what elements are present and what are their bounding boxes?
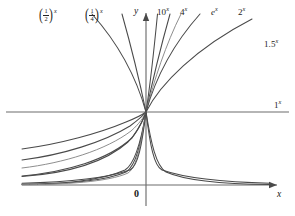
right-paren: )	[95, 9, 99, 21]
exponent-x: x	[54, 7, 57, 14]
left-paren: (	[85, 9, 89, 21]
curve-left-tail-bundle-c	[22, 112, 146, 168]
exponent-x: x	[215, 5, 218, 12]
exponent-x: x	[166, 5, 169, 12]
exponent-x: x	[276, 37, 279, 44]
left-paren: (	[39, 9, 43, 21]
x-axis-label: x	[277, 189, 281, 199]
curve-one-quarter-power-x	[122, 14, 270, 185]
right-paren: )	[49, 9, 53, 21]
exponent-x: x	[185, 5, 188, 12]
label-e-power-x: ex	[211, 6, 218, 17]
label-one-half-power-x: ( 1 2 ) x	[38, 8, 57, 22]
label-two-power-x: 2x	[238, 6, 245, 17]
base-text: 1.5	[264, 39, 276, 49]
base-text: 10	[157, 7, 166, 17]
fraction-denominator: 4	[89, 15, 94, 23]
label-one-quarter-power-x: ( 1 4 ) x	[84, 8, 103, 22]
y-axis-label: y	[134, 6, 138, 16]
plot-canvas	[0, 0, 295, 216]
exponent-x: x	[100, 7, 103, 14]
curve-left-tail-bundle-a	[22, 112, 146, 149]
fraction-numerator: 1	[89, 8, 94, 15]
label-four-power-x: 4x	[180, 6, 187, 17]
label-one-power-x: 1x	[274, 99, 281, 110]
fraction-one-half: ( 1 2 )	[38, 8, 54, 22]
label-ten-power-x: 10x	[157, 6, 169, 17]
curve-one-half-power-x	[92, 14, 270, 183]
exponent-x: x	[279, 98, 282, 105]
y-axis-up-arrow	[143, 13, 149, 21]
origin-label: 0	[134, 188, 139, 199]
label-one-point-five-power-x: 1.5x	[264, 38, 278, 49]
fraction-denominator: 2	[43, 15, 48, 23]
exponential-functions-figure: ( 1 2 ) x ( 1 4 ) x y 10x 4x ex 2x	[0, 0, 295, 216]
curve-two-power-x	[22, 14, 200, 183]
fraction-one-quarter: ( 1 4 )	[84, 8, 100, 22]
exponent-x: x	[243, 5, 246, 12]
fraction-numerator: 1	[43, 8, 48, 15]
